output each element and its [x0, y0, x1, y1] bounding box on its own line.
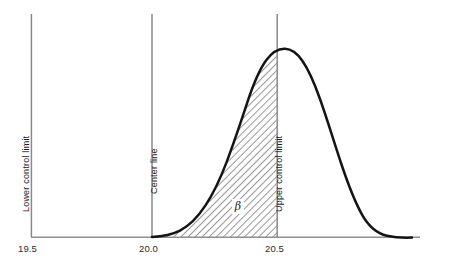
- beta-region-label: β: [232, 199, 244, 214]
- center-line-label: Center line: [150, 148, 159, 194]
- lower-control-limit-label: Lower control limit: [22, 136, 31, 212]
- upper-control-limit-label: Upper control limit: [275, 136, 284, 212]
- figure-root: Lower control limit Center line Upper co…: [0, 0, 457, 276]
- x-tick-label-19-5: 19.5: [18, 244, 37, 254]
- distribution-plot: [0, 0, 457, 276]
- x-tick-label-20-0: 20.0: [139, 244, 158, 254]
- x-tick-label-20-5: 20.5: [265, 244, 284, 254]
